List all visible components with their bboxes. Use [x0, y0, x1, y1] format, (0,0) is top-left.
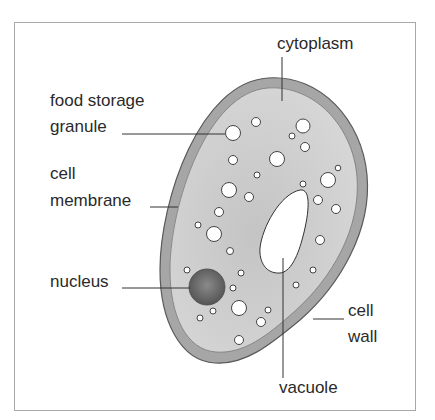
label-cell-wall-line2: wall: [348, 326, 377, 348]
label-cell-membrane-line1: cell: [50, 163, 76, 185]
label-food-storage-line2: granule: [50, 116, 107, 138]
label-vacuole: vacuole: [279, 377, 338, 399]
nucleus: [189, 269, 225, 305]
label-food-storage-line1: food storage: [50, 90, 145, 112]
label-cell-membrane-line2: membrane: [50, 190, 131, 212]
label-cell-wall-line1: cell: [348, 300, 374, 322]
label-cytoplasm: cytoplasm: [277, 33, 354, 55]
cytoplasm: [170, 88, 357, 352]
label-nucleus: nucleus: [50, 271, 109, 293]
